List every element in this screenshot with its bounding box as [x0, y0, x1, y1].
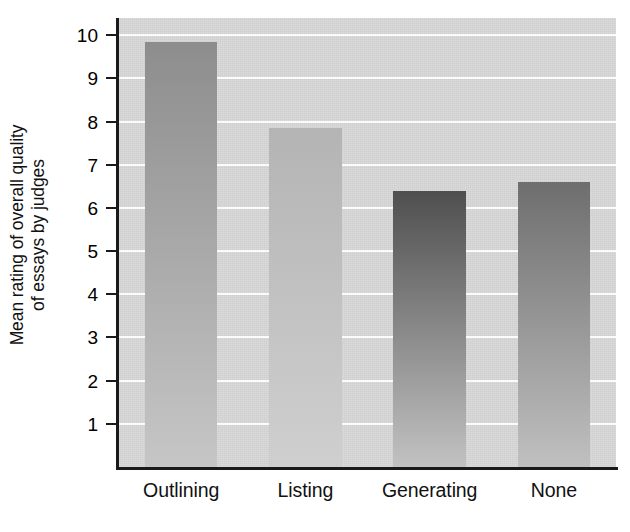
bar-chart-figure: Mean rating of overall quality of essays… — [0, 0, 630, 532]
x-axis-tick-label: Outlining — [143, 478, 219, 502]
x-axis-tick-label: None — [531, 478, 577, 502]
y-axis-title-line-2: of essays by judges — [28, 125, 49, 346]
x-axis-tick-label: Generating — [382, 478, 477, 502]
y-axis-tick-label: 10 — [77, 26, 98, 45]
x-axis-spine — [116, 467, 618, 470]
bar-generating — [393, 191, 466, 467]
x-axis-tick-labels: OutliningListingGeneratingNone — [119, 478, 616, 518]
y-axis-title-line-1: Mean rating of overall quality — [7, 125, 27, 346]
y-axis-tick-label: 3 — [87, 328, 98, 347]
plot-area — [119, 18, 616, 467]
y-axis-title: Mean rating of overall quality of essays… — [0, 0, 56, 470]
y-axis-tick-labels: 12345678910 — [56, 0, 106, 470]
y-axis-tick-label: 8 — [87, 112, 98, 131]
y-axis-tick-label: 5 — [87, 242, 98, 261]
bar-listing — [269, 128, 342, 467]
x-axis-tick-label: Listing — [278, 478, 334, 502]
y-axis-tick-label: 6 — [87, 198, 98, 217]
y-axis-tick-label: 9 — [87, 69, 98, 88]
gridline — [119, 34, 616, 36]
bar-none — [518, 182, 591, 467]
y-axis-tick-label: 7 — [87, 155, 98, 174]
y-axis-title-text: Mean rating of overall quality of essays… — [7, 125, 49, 346]
y-axis-tick-label: 2 — [87, 371, 98, 390]
y-axis-tick-label: 1 — [87, 414, 98, 433]
bar-outlining — [145, 42, 218, 467]
y-axis-tick-label: 4 — [87, 285, 98, 304]
